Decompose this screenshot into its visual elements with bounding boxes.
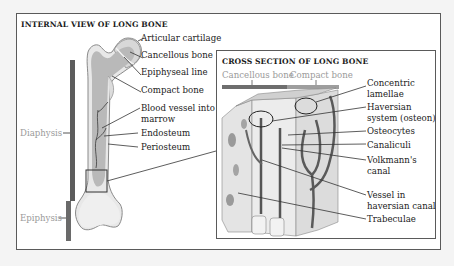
right-panel-title: CROSS SECTION OF LONG BONE (222, 57, 368, 66)
label-vessel-2: haversian canal (367, 201, 436, 212)
bar-label-cancellous: Cancellous bone (222, 70, 294, 81)
trabecula-hole (233, 164, 239, 176)
osteon-cylinder (252, 216, 266, 234)
label-vessel-1: Vessel in (367, 190, 405, 201)
trabecula-hole (241, 119, 247, 129)
label-volkmann-2: canal (367, 166, 390, 177)
cancellous-bar (222, 85, 287, 89)
trabecula-hole (226, 194, 234, 206)
label-canaliculi: Canaliculi (367, 140, 411, 151)
label-trabeculae: Trabeculae (367, 214, 416, 225)
label-osteocytes: Osteocytes (367, 126, 415, 137)
trabecula-hole (228, 133, 236, 147)
osteon-cylinder (270, 218, 284, 236)
label-concentric-2: lamellae (367, 89, 404, 100)
label-haversian-2: system (osteon) (367, 113, 436, 124)
bar-label-compact: Compact bone (290, 70, 353, 81)
label-concentric-1: Concentric (367, 78, 415, 89)
label-volkmann-1: Volkmann's (367, 155, 417, 166)
label-haversian-1: Haversian (367, 102, 411, 113)
